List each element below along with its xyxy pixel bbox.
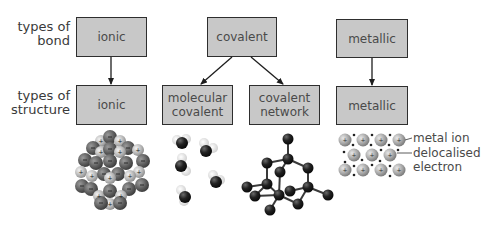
svg-text:+: + [107,200,112,207]
svg-text:+: + [360,136,365,143]
svg-text:+: + [89,172,94,179]
diagram-graphics: +++ ++ +++ ++ +++ [0,0,491,225]
arrow-covalent-molecular [201,57,232,84]
svg-text:+: + [342,136,347,143]
svg-text:+: + [387,151,392,158]
svg-text:+: + [98,148,103,155]
metal-ion-label: metal ion [413,131,470,145]
delocalised-electron-label-line1: delocalised [413,146,481,160]
svg-text:+: + [78,168,83,175]
covalent-network-illustration [242,134,334,216]
svg-text:+: + [378,136,383,143]
svg-text:+: + [118,192,123,199]
svg-text:+: + [107,174,112,181]
ionic-lattice-illustration: +++ ++ +++ ++ +++ [75,130,150,210]
svg-text:+: + [127,172,132,179]
delocalised-electron-label-line2: electron [413,160,481,174]
svg-text:+: + [98,137,103,144]
svg-text:+: + [396,136,401,143]
metallic-lattice-illustration: ++++ +++ ++++ [339,134,413,178]
svg-text:+: + [96,192,101,199]
delocalised-electron-label: delocalised electron [413,146,481,174]
molecular-covalent-illustration [172,134,225,206]
arrow-covalent-network [251,57,283,84]
svg-text:+: + [360,166,365,173]
svg-text:+: + [351,151,356,158]
svg-text:+: + [135,146,140,153]
svg-text:+: + [342,166,347,173]
svg-text:+: + [396,166,401,173]
svg-text:+: + [378,166,383,173]
svg-text:+: + [117,137,122,144]
metal-ion-leader [405,138,412,140]
svg-text:+: + [369,151,374,158]
svg-text:+: + [136,168,141,175]
svg-text:+: + [117,148,122,155]
